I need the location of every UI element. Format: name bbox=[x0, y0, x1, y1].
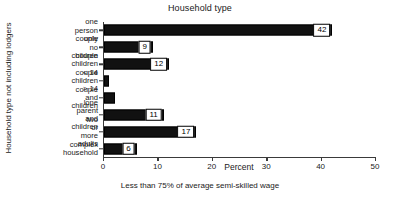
bar-row: lone parent and children11 bbox=[103, 106, 375, 123]
bar bbox=[104, 76, 109, 87]
y-axis-tick bbox=[99, 148, 103, 149]
chart-title: Household type bbox=[0, 3, 400, 13]
x-axis-tick bbox=[103, 157, 104, 161]
bar-value-label: 17 bbox=[178, 125, 195, 138]
chart-caption: Less than 75% of average semi-skilled wa… bbox=[0, 181, 400, 190]
bar-chart: Household type Household type not includ… bbox=[0, 0, 400, 201]
x-axis-tick bbox=[212, 157, 213, 161]
bar-value-label: 9 bbox=[139, 41, 151, 54]
bar-value-label: 12 bbox=[150, 58, 167, 71]
y-axis-title: Household type not including lodgers bbox=[1, 18, 15, 158]
x-axis-tick bbox=[157, 157, 158, 161]
category-label: complex household bbox=[63, 140, 98, 156]
bar-row: couple and children bbox=[103, 90, 375, 107]
y-axis-tick bbox=[99, 47, 103, 48]
bar-row: complex household6 bbox=[103, 140, 375, 157]
y-axis-title-text: Household type not including lodgers bbox=[4, 22, 13, 153]
plot-area: one person only42couple no children9coup… bbox=[103, 22, 375, 157]
y-axis-tick bbox=[99, 114, 103, 115]
bar-row: couple no children9 bbox=[103, 39, 375, 56]
x-axis-tick bbox=[375, 157, 376, 161]
bar-value-label: 6 bbox=[122, 142, 134, 155]
x-axis-tick bbox=[321, 157, 322, 161]
bar-row: couple children < 1412 bbox=[103, 56, 375, 73]
bar-row: couple children > 14 bbox=[103, 73, 375, 90]
bar-value-label: 42 bbox=[314, 24, 331, 37]
bar bbox=[104, 25, 332, 36]
y-axis-tick bbox=[99, 131, 103, 132]
y-axis-tick bbox=[99, 80, 103, 81]
bar-row: two or more adults17 bbox=[103, 123, 375, 140]
y-axis-tick bbox=[99, 30, 103, 31]
x-axis-tick bbox=[266, 157, 267, 161]
bar-row: one person only42 bbox=[103, 22, 375, 39]
bar-value-label: 11 bbox=[146, 109, 162, 122]
x-axis-line bbox=[103, 157, 375, 158]
y-axis-tick bbox=[99, 63, 103, 64]
y-axis-tick bbox=[99, 97, 103, 98]
x-axis-title: Percent bbox=[103, 162, 375, 172]
bar bbox=[104, 92, 115, 103]
